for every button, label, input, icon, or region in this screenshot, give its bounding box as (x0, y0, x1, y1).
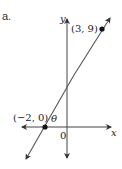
line-graph-diagram: a. y x 0 (3, 9) (−2, 0) θ (0, 0, 122, 169)
x-axis-label: x (111, 127, 117, 138)
angle-theta-label: θ (51, 113, 57, 124)
point-neg2-0 (42, 124, 47, 129)
part-label: a. (2, 10, 11, 22)
point-label-3-9: (3, 9) (71, 23, 98, 34)
y-axis-label: y (59, 13, 66, 24)
origin-label: 0 (60, 130, 66, 141)
point-3-9 (99, 26, 104, 31)
point-label-neg2-0: (−2, 0) (13, 112, 48, 123)
